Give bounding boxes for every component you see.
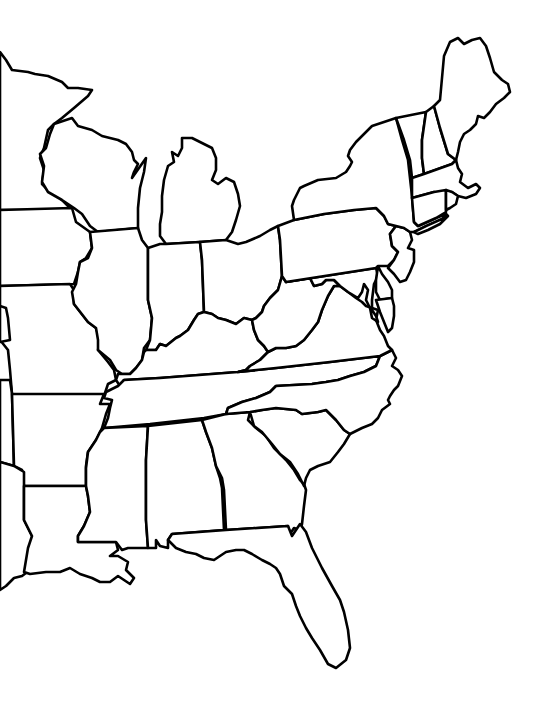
map-canvas: Minnesota Iowa Missouri Kansas Oklahoma … xyxy=(0,0,543,714)
eastern-us-outline-map: Minnesota Iowa Missouri Kansas Oklahoma … xyxy=(0,0,543,714)
